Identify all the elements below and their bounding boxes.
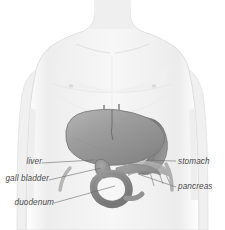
right-nipple <box>152 84 157 87</box>
label-stomach: stomach <box>178 157 210 166</box>
anatomy-illustration <box>0 0 225 230</box>
label-pancreas: pancreas <box>178 182 212 191</box>
neck <box>88 0 137 29</box>
label-duodenum: duodenum <box>0 198 54 207</box>
label-liver: liver <box>0 157 42 166</box>
anatomy-figure: liver gall bladder duodenum stomach panc… <box>0 0 225 230</box>
left-nipple <box>69 84 74 87</box>
label-gall-bladder: gall bladder <box>0 174 49 183</box>
